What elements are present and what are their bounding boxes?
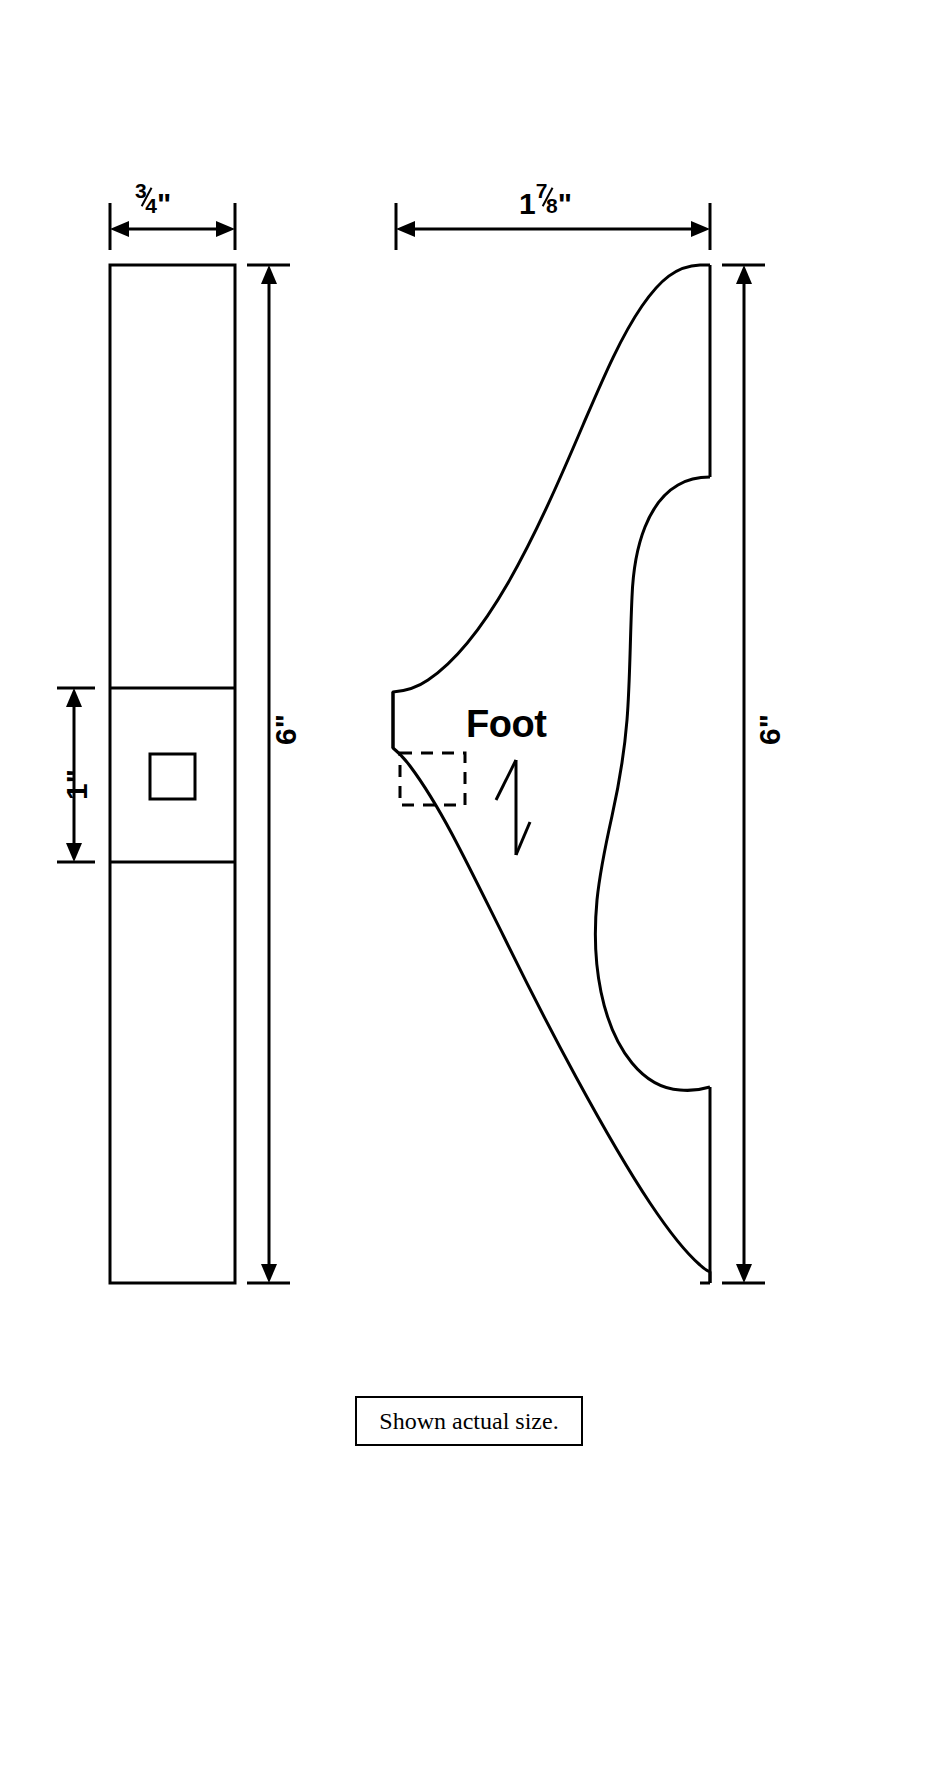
technical-drawing <box>0 0 938 1774</box>
side-width-dimension <box>110 203 235 250</box>
side-height-label: 6" <box>271 714 301 745</box>
figure-canvas: 3 4 " 1 7 8 " 6" 6" 1" Foot Shown actual… <box>0 0 938 1774</box>
front-height-label: 6" <box>755 714 785 745</box>
front-profile-outline <box>393 265 710 1283</box>
front-width-unit: " <box>558 187 572 220</box>
front-height-dimension <box>722 265 765 1283</box>
fraction-denominator: 4 <box>145 195 157 216</box>
fraction-seven-eighths: 7 8 <box>536 186 558 214</box>
fraction-denominator: 8 <box>546 195 558 216</box>
side-width-unit: " <box>157 187 171 220</box>
front-width-whole: 1 <box>519 187 536 220</box>
part-name-label: Foot <box>466 703 546 746</box>
side-height-dimension <box>247 265 290 1283</box>
front-width-label: 1 7 8 " <box>519 186 572 219</box>
caption-box: Shown actual size. <box>355 1396 583 1446</box>
fraction-three-quarters: 3 4 <box>135 186 157 214</box>
caption-text: Shown actual size. <box>357 1398 581 1444</box>
side-view-mortise <box>150 754 195 799</box>
inset-height-label: 1" <box>62 769 92 800</box>
side-width-label: 3 4 " <box>135 186 171 219</box>
